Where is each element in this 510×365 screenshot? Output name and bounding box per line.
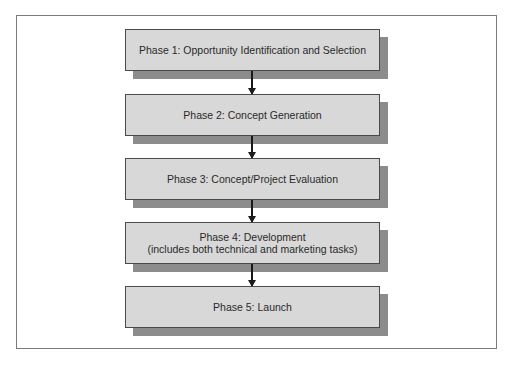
arrow-2-to-3 bbox=[251, 136, 253, 158]
phase-5-node: Phase 5: Launch bbox=[125, 286, 380, 328]
phase-4-sublabel: (includes both technical and marketing t… bbox=[147, 243, 357, 255]
phase-4-node: Phase 4: Development (includes both tech… bbox=[125, 222, 380, 264]
phase-2-label: Phase 2: Concept Generation bbox=[183, 109, 321, 121]
phase-1-node: Phase 1: Opportunity Identification and … bbox=[125, 29, 380, 71]
phase-2-node: Phase 2: Concept Generation bbox=[125, 94, 380, 136]
arrow-3-to-4 bbox=[251, 200, 253, 222]
phase-2-box: Phase 2: Concept Generation bbox=[125, 94, 380, 136]
phase-3-node: Phase 3: Concept/Project Evaluation bbox=[125, 158, 380, 200]
phase-4-label: Phase 4: Development bbox=[199, 231, 305, 243]
phase-3-label: Phase 3: Concept/Project Evaluation bbox=[167, 173, 338, 185]
phase-3-box: Phase 3: Concept/Project Evaluation bbox=[125, 158, 380, 200]
phase-1-label: Phase 1: Opportunity Identification and … bbox=[139, 44, 366, 56]
phase-5-box: Phase 5: Launch bbox=[125, 286, 380, 328]
phase-4-box: Phase 4: Development (includes both tech… bbox=[125, 222, 380, 264]
phase-5-label: Phase 5: Launch bbox=[213, 301, 292, 313]
arrow-1-to-2 bbox=[251, 71, 253, 94]
arrow-4-to-5 bbox=[251, 264, 253, 286]
phase-1-box: Phase 1: Opportunity Identification and … bbox=[125, 29, 380, 71]
